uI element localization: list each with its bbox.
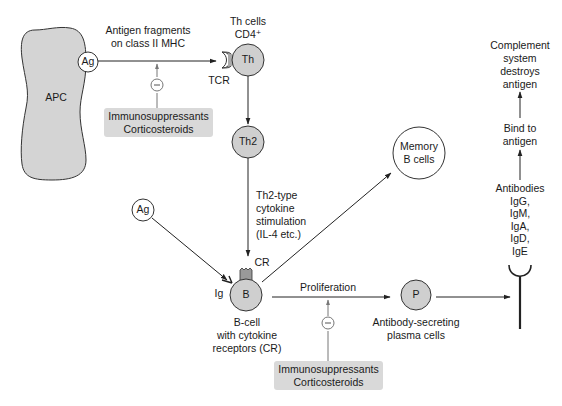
antibodies-label: Antibodies IgG, IgM, IgA, IgD, IgE	[490, 182, 550, 257]
th2-label: Th2	[234, 135, 262, 147]
bind-to-antigen-label: Bind to antigen	[490, 122, 550, 148]
tcr-label: TCR	[205, 74, 233, 87]
plasma-caption: Antibody-secreting plasma cells	[366, 316, 466, 342]
ag-top-label: Ag	[78, 55, 98, 67]
b-cell-caption: B-cell with cytokine receptors (CR)	[205, 316, 289, 355]
cr-label: CR	[252, 256, 272, 269]
plasma-label: P	[406, 288, 426, 300]
b-label: B	[236, 288, 256, 300]
apc-label: APC	[36, 91, 76, 104]
complement-label: Complement system destroys antigen	[484, 39, 556, 91]
ag-bottom-label: Ag	[131, 203, 155, 215]
th-caption: Th cells CD4⁺	[220, 15, 276, 41]
ag-to-b-arrow	[152, 218, 227, 280]
memory-b-cell-label: Memory B cells	[393, 140, 445, 166]
antibody-icon	[509, 265, 531, 276]
presentation-label: Antigen fragments on class II MHC	[92, 24, 204, 50]
ig-label: Ig	[212, 287, 226, 300]
proliferation-label: Proliferation	[288, 281, 368, 294]
inhibitor-box-top: Immunosuppressants Corticosteroids	[104, 108, 213, 137]
inhibitor-box-bottom: Immunosuppressants Corticosteroids	[274, 361, 383, 390]
cytokine-label: Th2-type cytokine stimulation (IL-4 etc.…	[256, 189, 306, 241]
th-label: Th	[236, 53, 260, 65]
